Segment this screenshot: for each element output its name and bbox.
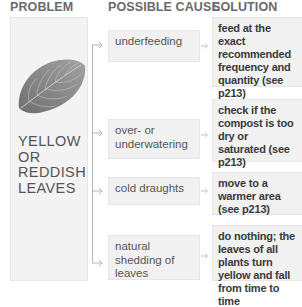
header-solution: SOLUTION [212,0,277,14]
cause-box-natural-shedding: natural shedding of leaves [108,235,200,280]
header-possible-cause: POSSIBLE CAUSE [108,0,220,14]
solution-box-feed: feed at the exact recommended frequency … [212,17,302,87]
problem-label: YELLOW OR REDDISH LEAVES [18,134,86,196]
arrow-right-icon [201,131,209,139]
arrow-right-icon [201,252,209,260]
connector-line [92,45,93,263]
solution-box-do-nothing: do nothing; the leaves of all plants tur… [212,225,302,281]
cause-box-watering: over- or underwatering [108,119,200,159]
leaf-icon [15,56,87,118]
solution-box-warmer: move to a warmer area (see p213) [212,172,302,215]
solution-box-compost: check if the compost is too dry or satur… [212,99,302,162]
arrow-right-icon [201,42,209,50]
problem-box: YELLOW OR REDDISH LEAVES [10,17,88,281]
arrow-right-icon [92,187,104,195]
cause-box-cold-draughts: cold draughts [108,177,200,205]
cause-box-underfeeding: underfeeding [108,30,200,62]
arrow-right-icon [92,259,104,267]
arrow-right-icon [92,129,104,137]
header-problem: PROBLEM [10,0,73,14]
arrow-right-icon [92,41,104,49]
arrow-right-icon [201,187,209,195]
